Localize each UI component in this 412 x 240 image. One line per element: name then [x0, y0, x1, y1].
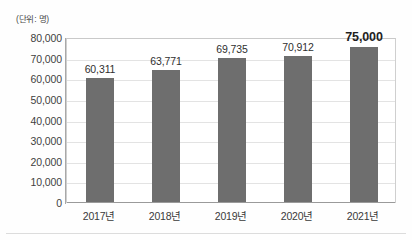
y-axis-tick-label: 0 — [6, 197, 62, 209]
plot-area: 60,31163,77169,73570,91275,000 — [66, 38, 396, 203]
bar-group: 63,771 — [133, 39, 199, 202]
y-axis-tick-label: 20,000 — [6, 156, 62, 168]
x-axis-tick-label: 2018년 — [149, 208, 181, 223]
x-axis-tick-label: 2021년 — [347, 208, 379, 223]
bar-value-label: 70,912 — [282, 41, 314, 53]
y-axis-tick-label: 40,000 — [6, 115, 62, 127]
bar-value-label: 75,000 — [345, 30, 383, 44]
y-axis-tick-label: 10,000 — [6, 176, 62, 188]
y-axis-tick-label: 60,000 — [6, 73, 62, 85]
bar-value-label: 69,735 — [216, 43, 248, 55]
bar-chart-figure: (단위: 명) 010,00020,00030,00040,00050,0006… — [0, 0, 412, 240]
bar — [152, 70, 180, 202]
bar-value-label: 63,771 — [150, 55, 182, 67]
y-axis-tick-label: 80,000 — [6, 32, 62, 44]
x-axis-tick-label: 2019년 — [215, 208, 247, 223]
bar-value-label: 60,311 — [85, 63, 116, 75]
y-axis-tick-label: 70,000 — [6, 53, 62, 65]
bar — [350, 47, 378, 202]
bar-group: 75,000 — [331, 39, 397, 202]
bar — [218, 58, 246, 202]
bottom-divider — [6, 233, 406, 234]
x-axis: 2017년2018년2019년2020년2021년 — [66, 205, 396, 235]
x-axis-tick-label: 2020년 — [281, 208, 313, 223]
bar — [284, 56, 312, 202]
y-axis-tick-label: 50,000 — [6, 94, 62, 106]
x-axis-tick-label: 2017년 — [83, 208, 115, 223]
y-axis-tick-label: 30,000 — [6, 135, 62, 147]
y-axis: 010,00020,00030,00040,00050,00060,00070,… — [0, 0, 62, 240]
bar-group: 60,311 — [67, 39, 133, 202]
bar-group: 69,735 — [199, 39, 265, 202]
bar — [86, 78, 114, 202]
bar-group: 70,912 — [265, 39, 331, 202]
x-axis-baseline — [67, 202, 395, 203]
